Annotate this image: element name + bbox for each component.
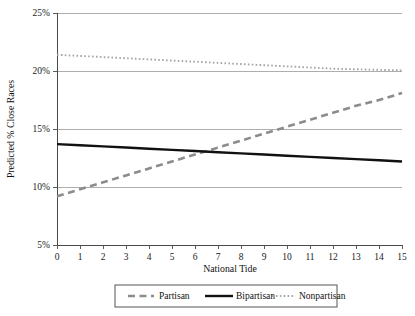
x-axis-tick-label: 1 xyxy=(78,252,83,262)
series-line-bipartisan xyxy=(57,144,402,161)
x-axis-tick-label: 13 xyxy=(351,252,361,262)
x-axis-tick-label: 10 xyxy=(282,252,292,262)
x-axis-tick-label: 4 xyxy=(147,252,152,262)
y-axis-tick-label: 5% xyxy=(37,240,50,250)
x-axis-tick-labels: 0123456789101112131415 xyxy=(55,252,407,262)
x-axis-tick-label: 7 xyxy=(216,252,221,262)
chart-legend: PartisanBipartisanNonpartisan xyxy=(115,285,346,307)
x-axis-tick-label: 15 xyxy=(397,252,407,262)
x-axis-ticks xyxy=(57,245,402,249)
gridlines xyxy=(57,13,402,245)
x-axis-tick-label: 5 xyxy=(170,252,175,262)
x-axis-tick-label: 2 xyxy=(101,252,106,262)
line-chart: 25%20%15%10%5% 0123456789101112131415 Na… xyxy=(0,0,415,316)
x-axis-tick-label: 3 xyxy=(124,252,129,262)
legend-items: PartisanBipartisanNonpartisan xyxy=(128,291,346,301)
x-axis-tick-label: 8 xyxy=(239,252,244,262)
data-series-group xyxy=(57,55,402,197)
x-axis-tick-label: 12 xyxy=(328,252,338,262)
x-axis-tick-label: 0 xyxy=(55,252,60,262)
y-axis-tick-label: 15% xyxy=(33,124,51,134)
legend-label-bipartisan: Bipartisan xyxy=(236,291,275,301)
chart-figure: 25%20%15%10%5% 0123456789101112131415 Na… xyxy=(0,0,415,316)
series-line-nonpartisan xyxy=(57,55,402,71)
y-axis-tick-labels: 25%20%15%10%5% xyxy=(33,8,57,250)
y-axis-tick-label: 20% xyxy=(33,66,51,76)
x-axis-tick-label: 6 xyxy=(193,252,198,262)
x-axis-tick-label: 14 xyxy=(374,252,384,262)
series-line-partisan xyxy=(57,93,402,196)
y-axis-tick-label: 25% xyxy=(33,8,51,18)
legend-label-nonpartisan: Nonpartisan xyxy=(299,291,346,301)
x-axis-tick-label: 11 xyxy=(305,252,314,262)
y-axis-tick-label: 10% xyxy=(33,182,51,192)
x-axis-title: National Tide xyxy=(203,263,257,274)
x-axis-tick-label: 9 xyxy=(262,252,267,262)
legend-label-partisan: Partisan xyxy=(159,291,190,301)
y-axis-title: Predicted % Close Races xyxy=(5,80,16,178)
